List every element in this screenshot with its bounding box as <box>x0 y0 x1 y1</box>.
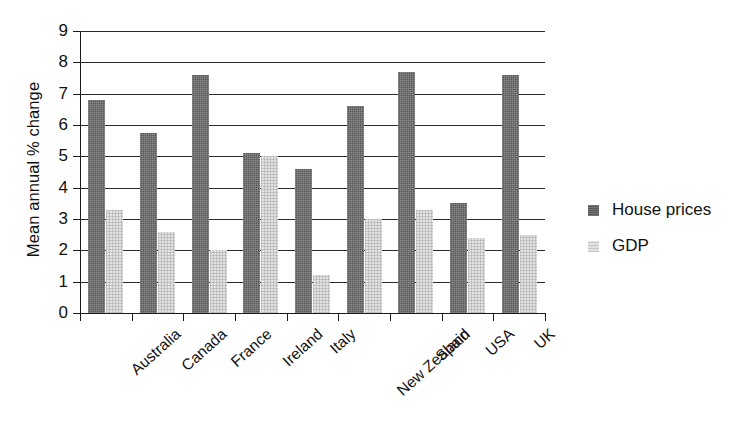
y-axis-tick <box>73 313 80 314</box>
bar <box>243 153 260 313</box>
y-axis-tick <box>73 125 80 126</box>
y-axis-tick-label: 9 <box>59 21 68 41</box>
bar-group <box>442 31 494 313</box>
bar <box>347 106 364 313</box>
bar <box>192 75 209 313</box>
x-axis-label: Australia <box>128 325 185 379</box>
legend-swatch-icon <box>588 241 599 252</box>
y-axis-tick-label: 4 <box>59 178 68 198</box>
bar <box>468 238 485 313</box>
x-axis-tick <box>80 313 81 321</box>
bar-chart-figure: Mean annual % change 0123456789 Australi… <box>0 0 742 433</box>
bar-group <box>390 31 442 313</box>
y-axis-tick-label: 3 <box>59 209 68 229</box>
y-axis-tick <box>73 94 80 95</box>
x-axis-tick <box>545 313 546 321</box>
bars-layer <box>80 31 545 313</box>
y-axis-tick-label: 7 <box>59 84 68 104</box>
x-axis-tick <box>287 313 288 321</box>
bar-group <box>80 31 132 313</box>
x-axis-tick <box>493 313 494 321</box>
y-axis-tick-label: 8 <box>59 52 68 72</box>
y-axis-tick <box>73 31 80 32</box>
y-axis-tick <box>73 250 80 251</box>
bar-group <box>183 31 235 313</box>
legend-swatch-icon <box>588 205 599 216</box>
y-axis-tick-label: 5 <box>59 146 68 166</box>
bar <box>295 169 312 313</box>
y-axis-tick <box>73 282 80 283</box>
bar <box>106 210 123 313</box>
y-axis-tick <box>73 188 80 189</box>
bar-group <box>493 31 545 313</box>
bar <box>416 210 433 313</box>
plot-area: 0123456789 AustraliaCanadaFranceIrelandI… <box>80 31 545 313</box>
y-axis-tick-label: 1 <box>59 272 68 292</box>
legend-label: House prices <box>612 200 711 220</box>
bar-group <box>235 31 287 313</box>
bar <box>210 250 227 313</box>
bar <box>261 156 278 313</box>
x-axis-label: Spain <box>432 325 474 365</box>
bar-group <box>338 31 390 313</box>
x-axis-tick <box>132 313 133 321</box>
bar <box>140 133 157 313</box>
bar <box>502 75 519 313</box>
bar <box>313 275 330 313</box>
x-axis-baseline <box>80 313 545 314</box>
y-axis-tick <box>73 219 80 220</box>
legend-item: House prices <box>588 192 711 228</box>
y-axis-tick-label: 2 <box>59 240 68 260</box>
bar <box>520 235 537 313</box>
x-axis-tick <box>183 313 184 321</box>
x-axis-tick <box>235 313 236 321</box>
bar <box>88 100 105 313</box>
chart-legend: House pricesGDP <box>588 192 711 264</box>
y-axis-tick <box>73 62 80 63</box>
bar <box>158 232 175 313</box>
legend-item: GDP <box>588 228 711 264</box>
x-axis-label: USA <box>482 325 518 360</box>
y-axis-title: Mean annual % change <box>24 20 43 320</box>
x-axis-label: Italy <box>326 325 359 357</box>
x-axis-label: France <box>228 325 276 371</box>
x-axis-label: Ireland <box>279 325 326 370</box>
x-axis-tick <box>390 313 391 321</box>
x-axis-label: UK <box>531 325 559 353</box>
y-axis-tick <box>73 156 80 157</box>
legend-label: GDP <box>612 236 649 256</box>
x-axis-tick <box>338 313 339 321</box>
x-axis-label: Canada <box>178 325 230 375</box>
bar <box>365 219 382 313</box>
bar-group <box>287 31 339 313</box>
y-axis-tick-label: 6 <box>59 115 68 135</box>
bar-group <box>132 31 184 313</box>
x-axis-tick <box>442 313 443 321</box>
y-axis-tick-label: 0 <box>59 303 68 323</box>
bar <box>450 203 467 313</box>
bar <box>398 72 415 313</box>
